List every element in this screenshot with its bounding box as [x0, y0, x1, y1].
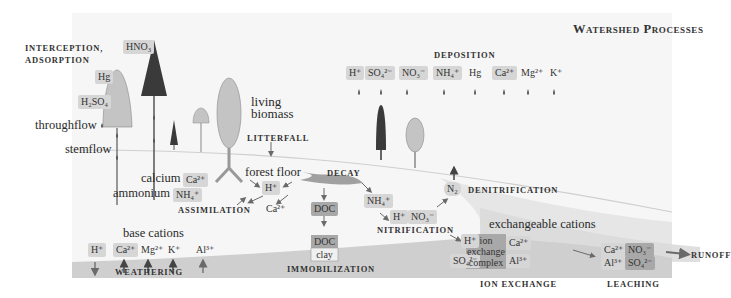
diagram-title: Watershed Processes: [573, 23, 704, 36]
weather-ion-h: H⁺: [88, 243, 106, 257]
leach-ion-so4: SO₄²⁻: [625, 256, 655, 270]
leach-ion-al: Al³⁺: [601, 256, 625, 270]
dep-ion-k: K⁺: [547, 66, 565, 80]
leach-ion-ca: Ca²⁺: [601, 243, 626, 257]
ix-ion-al: Al³⁺: [506, 254, 530, 268]
chip-calcium: Ca²⁺: [183, 173, 208, 187]
label-assimilation: ASSIMILATION: [178, 206, 251, 215]
label-adsorption: ADSORPTION: [25, 56, 90, 65]
label-deposition: DEPOSITION: [434, 51, 495, 60]
weather-ion-ca: Ca²⁺: [113, 243, 138, 257]
chip-hg: Hg: [95, 70, 113, 84]
weather-ion-k: K⁺: [165, 243, 183, 257]
immob-clay: clay: [311, 249, 338, 260]
nit-ion-nh4: NH₄⁺: [364, 194, 393, 208]
ff-ion-h: H⁺: [262, 181, 280, 195]
label-forest-floor: forest floor: [245, 166, 301, 179]
label-weathering: WEATHERING: [115, 268, 183, 277]
ix-complex-line3: complex: [466, 257, 506, 268]
ff-ion-ca: Ca²⁺: [263, 202, 288, 216]
leach-ion-no3: NO₃⁻: [625, 243, 654, 257]
label-nitrification: NITRIFICATION: [377, 226, 454, 235]
ix-ion-ca: Ca²⁺: [506, 236, 531, 250]
immob-doc: DOC: [311, 236, 338, 247]
label-stemflow: stemflow: [65, 143, 112, 156]
label-leaching: LEACHING: [607, 280, 660, 289]
label-ammonium: ammonium: [113, 187, 170, 200]
dep-ion-mg: Mg²⁺: [518, 66, 546, 80]
tree-biomass: [217, 78, 241, 148]
label-biomass: biomass: [251, 107, 294, 120]
weather-ion-mg: Mg²⁺: [138, 243, 166, 257]
label-litterfall: LITTERFALL: [247, 134, 309, 143]
label-base-cations: base cations: [123, 227, 184, 240]
label-runoff: RUNOFF: [691, 251, 731, 260]
ix-complex-line2: exchange: [466, 246, 506, 257]
weather-ion-al: Al³⁺: [193, 243, 217, 257]
label-denitrification: DENITRIFICATION: [468, 186, 558, 195]
label-ion-exchange: ION EXCHANGE: [480, 280, 557, 289]
chip-hno3: HNO₃: [123, 40, 154, 54]
denit-ion-n2: N₂: [444, 182, 461, 196]
dep-ion-hg: Hg: [466, 66, 484, 80]
dep-ion-nh4: NH₄⁺: [433, 66, 462, 80]
label-calcium: calcium: [141, 172, 181, 185]
ix-complex-line1: ion: [466, 235, 506, 246]
nit-ion-no3: NO₃⁻: [408, 210, 437, 224]
watershed-diagram: Watershed Processes INTERCEPTION, ADSORP…: [0, 0, 731, 298]
label-decay: DECAY: [327, 169, 360, 178]
tree-light-3: [406, 118, 424, 152]
dep-ion-ca: Ca²⁺: [492, 66, 517, 80]
label-exchangeable-cations: exchangeable cations: [489, 218, 596, 231]
label-interception: INTERCEPTION,: [25, 44, 103, 53]
nit-ion-h: H⁺: [390, 210, 408, 224]
dep-ion-h: H⁺: [346, 66, 364, 80]
dep-ion-no3: NO₃⁻: [399, 66, 428, 80]
ff-ion-doc: DOC: [311, 202, 338, 216]
label-immobilization: IMMOBILIZATION: [287, 265, 375, 274]
chip-h2so4: H₂SO₄: [78, 95, 111, 109]
chip-ammonium: NH₄⁺: [173, 188, 202, 202]
dep-ion-so4: SO₄²⁻: [365, 66, 395, 80]
label-throughflow: throughflow: [35, 119, 97, 132]
